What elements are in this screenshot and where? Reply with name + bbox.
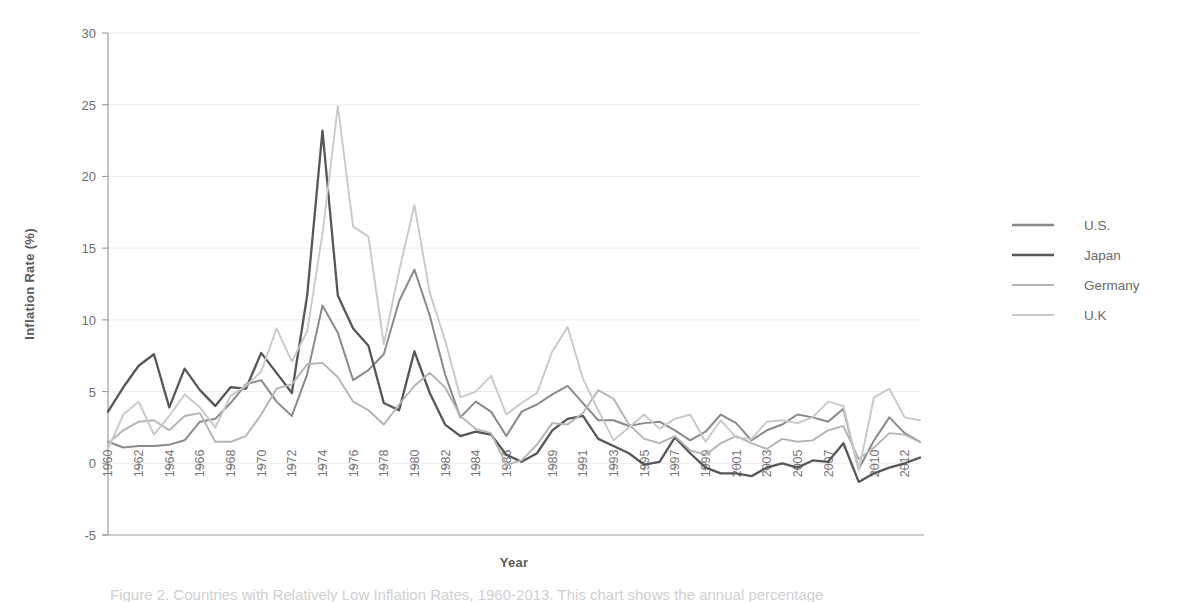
legend-label-u-k: U.K <box>1084 308 1107 323</box>
x-tick-label: 2005 <box>791 449 805 477</box>
chart-container: -505101520253019601962196419661968197019… <box>0 0 1194 602</box>
legend-label-japan: Japan <box>1084 248 1121 263</box>
y-tick-label: 10 <box>82 313 96 328</box>
y-tick-label: -5 <box>84 528 96 543</box>
series-line-u-s <box>108 270 920 469</box>
x-tick-label: 1974 <box>316 449 330 477</box>
x-axis-title: Year <box>500 555 529 570</box>
x-tick-label: 1976 <box>347 449 361 477</box>
x-tick-label: 1984 <box>469 449 483 477</box>
y-tick-label: 5 <box>89 385 96 400</box>
legend-label-u-s: U.S. <box>1084 218 1110 233</box>
x-tick-label: 1960 <box>102 449 116 477</box>
inflation-line-chart: -505101520253019601962196419661968197019… <box>0 0 1194 602</box>
x-tick-label: 1968 <box>224 449 238 477</box>
figure-caption: Figure 2. Countries with Relatively Low … <box>0 586 1194 602</box>
x-tick-label: 1997 <box>668 449 682 477</box>
x-tick-label: 1970 <box>255 449 269 477</box>
series-line-japan <box>108 131 920 482</box>
figure-caption-text: Figure 2. Countries with Relatively Low … <box>0 586 1194 602</box>
x-tick-label: 2003 <box>760 449 774 477</box>
y-tick-label: 30 <box>82 26 96 41</box>
x-tick-label: 1972 <box>285 449 299 477</box>
series-line-u-k <box>108 106 920 470</box>
y-tick-label: 15 <box>82 241 96 256</box>
x-tick-label: 1993 <box>607 449 621 477</box>
x-tick-label: 1978 <box>377 449 391 477</box>
y-tick-label: 25 <box>82 98 96 113</box>
y-axis-title: Inflation Rate (%) <box>22 228 37 340</box>
x-tick-label: 1989 <box>546 449 560 477</box>
x-tick-label: 1982 <box>439 449 453 477</box>
y-tick-label: 0 <box>89 456 96 471</box>
x-tick-label: 1980 <box>408 449 422 477</box>
legend-label-germany: Germany <box>1084 278 1140 293</box>
y-tick-label: 20 <box>82 169 96 184</box>
x-tick-label: 1964 <box>163 449 177 477</box>
x-tick-label: 1966 <box>193 449 207 477</box>
chart-page: -505101520253019601962196419661968197019… <box>0 0 1194 602</box>
x-tick-label: 1991 <box>576 449 590 477</box>
x-tick-label: 1962 <box>132 449 146 477</box>
